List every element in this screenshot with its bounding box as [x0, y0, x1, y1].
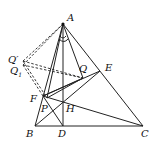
label-Q1-subscript: 1	[18, 71, 22, 78]
label-B: B	[26, 129, 33, 139]
label-Q1: Q1	[10, 66, 22, 78]
dashed-QpQ	[23, 61, 83, 78]
diagram-canvas	[0, 0, 162, 152]
label-Q: Q	[79, 64, 87, 74]
dashed-Q1Q	[23, 65, 83, 78]
segment-PQ	[47, 78, 83, 98]
geometry-diagram: A B D C E F H P Q Q′ Q1	[0, 0, 162, 152]
label-Q-prime: Q′	[8, 55, 18, 65]
label-A: A	[67, 13, 74, 23]
label-E: E	[105, 63, 112, 73]
label-Q1-base: Q	[10, 65, 18, 76]
label-H: H	[66, 104, 75, 114]
point-A-dot	[61, 22, 64, 25]
segment-AP	[47, 24, 63, 98]
label-D: D	[58, 129, 66, 139]
label-C: C	[141, 129, 149, 139]
segment-CF	[43, 96, 143, 126]
label-F: F	[30, 94, 37, 104]
segment-AC	[63, 24, 143, 126]
label-P: P	[41, 104, 48, 114]
dashed-Q1F	[23, 65, 43, 96]
